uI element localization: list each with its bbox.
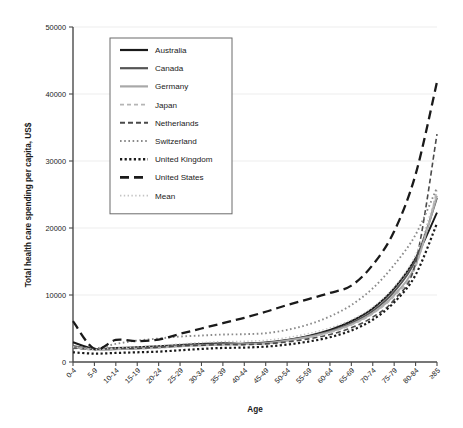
x-tick-label: ≥85 bbox=[427, 366, 442, 381]
y-axis-ticks: 01000020000300004000050000 bbox=[45, 23, 73, 367]
y-axis-title: Total health care spending per capita, U… bbox=[24, 122, 33, 287]
legend-label-mean: Mean bbox=[155, 192, 175, 201]
legend-label-netherlands: Netherlands bbox=[155, 119, 199, 128]
chart-figure: 01000020000300004000050000 0-45-910-1415… bbox=[0, 0, 463, 428]
x-tick-label: 65-69 bbox=[337, 366, 356, 385]
x-tick-label: 50-54 bbox=[273, 366, 292, 385]
series-line-australia bbox=[73, 213, 437, 350]
y-tick-label: 0 bbox=[62, 358, 66, 367]
legend-label-canada: Canada bbox=[155, 64, 184, 73]
y-tick-label: 20000 bbox=[45, 224, 66, 233]
x-tick-label: 0-4 bbox=[64, 366, 78, 380]
y-tick-label: 50000 bbox=[45, 23, 66, 32]
x-tick-label: 25-29 bbox=[166, 366, 185, 385]
y-tick-label: 10000 bbox=[45, 291, 66, 300]
x-axis-title: Age bbox=[247, 405, 263, 414]
legend-label-germany: Germany bbox=[155, 82, 189, 91]
legend-label-japan: Japan bbox=[155, 101, 177, 110]
y-tick-label: 40000 bbox=[45, 90, 66, 99]
x-tick-label: 70-74 bbox=[358, 366, 377, 385]
chart-legend: AustraliaCanadaGermanyJapanNetherlandsSw… bbox=[110, 38, 232, 214]
series-line-germany bbox=[73, 196, 437, 350]
y-tick-label: 30000 bbox=[45, 157, 66, 166]
legend-label-switzerland: Switzerland bbox=[155, 137, 197, 146]
series-line-united-kingdom bbox=[73, 223, 437, 353]
legend-label-united-kingdom: United Kingdom bbox=[155, 155, 213, 164]
series-line-mean bbox=[73, 193, 437, 349]
x-tick-label: 40-44 bbox=[230, 366, 249, 385]
x-tick-label: 60-64 bbox=[315, 366, 334, 385]
x-tick-label: 55-59 bbox=[294, 366, 313, 385]
x-tick-label: 15-19 bbox=[123, 366, 142, 385]
x-tick-label: 30-34 bbox=[187, 366, 206, 385]
legend-label-australia: Australia bbox=[155, 46, 187, 55]
legend-label-united-states: United States bbox=[155, 173, 204, 182]
x-tick-label: 35-39 bbox=[208, 366, 227, 385]
series-line-japan bbox=[73, 190, 437, 349]
x-tick-label: 20-24 bbox=[144, 366, 163, 385]
line-chart: 01000020000300004000050000 0-45-910-1415… bbox=[0, 0, 463, 428]
x-tick-label: 10-14 bbox=[101, 366, 120, 385]
x-tick-label: 5-9 bbox=[86, 366, 100, 380]
series-line-canada bbox=[73, 198, 437, 350]
x-axis-ticks: 0-45-910-1415-1920-2425-2930-3435-3940-4… bbox=[64, 362, 442, 385]
x-tick-label: 80-84 bbox=[401, 366, 420, 385]
x-tick-label: 45-49 bbox=[251, 366, 270, 385]
x-tick-label: 75-79 bbox=[380, 366, 399, 385]
